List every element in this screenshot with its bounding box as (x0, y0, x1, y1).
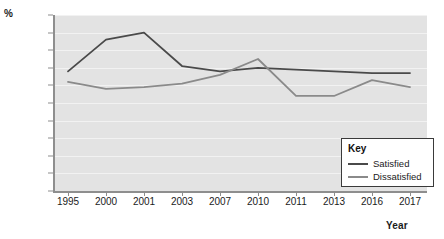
x-tick-mark (106, 191, 107, 196)
legend-title: Key (348, 143, 427, 154)
x-axis-title: Year (386, 220, 408, 231)
legend-item-satisfied: Satisfied (348, 157, 427, 170)
legend-item-dissatisfied: Dissatisfied (348, 170, 427, 183)
x-tick-mark (68, 191, 69, 196)
series-line-dissatisfied (68, 59, 410, 96)
x-tick-mark (182, 191, 183, 196)
x-tick-mark (334, 191, 335, 196)
legend-swatch-dissatisfied (348, 176, 368, 178)
x-tick-mark (144, 191, 145, 196)
line-chart: % Year 05101520253035404550 199520002001… (0, 0, 444, 239)
legend-label: Satisfied (373, 158, 409, 169)
legend-swatch-satisfied (348, 163, 368, 165)
x-tick-mark (220, 191, 221, 196)
x-tick-mark (372, 191, 373, 196)
x-tick-mark (258, 191, 259, 196)
x-tick-label: 2017 (388, 196, 432, 207)
legend: Key SatisfiedDissatisfied (341, 138, 434, 187)
y-axis-title: % (4, 8, 13, 19)
x-tick-mark (296, 191, 297, 196)
legend-rows: SatisfiedDissatisfied (348, 157, 427, 183)
legend-label: Dissatisfied (373, 171, 422, 182)
x-tick-mark (410, 191, 411, 196)
